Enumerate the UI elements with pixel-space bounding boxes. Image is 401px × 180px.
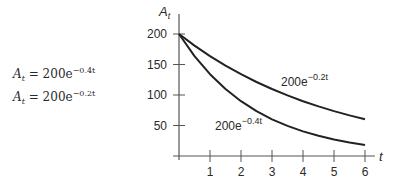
x-tick-label: 3 <box>269 165 276 179</box>
x-tick-label: 6 <box>362 165 369 179</box>
y-tick-label: 50 <box>154 119 168 133</box>
x-axis-title: t <box>379 149 384 164</box>
curve-0 <box>179 34 365 119</box>
x-tick-label: 1 <box>207 165 214 179</box>
curve-label-0.4: 200e−0.4t <box>215 116 262 133</box>
x-tick-label: 5 <box>331 165 338 179</box>
x-tick-label: 2 <box>238 165 245 179</box>
curve-label-0.2: 200e−0.2t <box>281 72 328 89</box>
y-axis-title: At <box>158 4 171 21</box>
y-tick-label: 200 <box>147 27 167 41</box>
y-tick-label: 100 <box>147 88 167 102</box>
x-tick-label: 4 <box>300 165 307 179</box>
y-tick-label: 150 <box>147 58 167 72</box>
decay-chart: 50100150200123456Att200e−0.2t200e−0.4t <box>0 0 401 180</box>
